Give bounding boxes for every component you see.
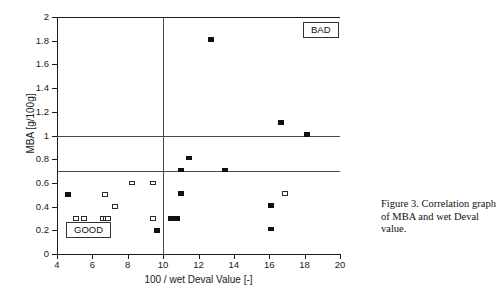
y-tick-mark (52, 136, 57, 137)
y-tick-mark (52, 159, 57, 160)
x-tick-label: 6 (80, 259, 104, 270)
x-tick-label: 18 (293, 259, 317, 270)
y-tick-mark (52, 64, 57, 65)
y-tick-mark (52, 17, 57, 18)
x-tick-label: 10 (151, 259, 175, 270)
y-tick-label: 2 (22, 11, 49, 22)
y-tick-label: 1.8 (22, 35, 49, 46)
data-point-filled-square (178, 168, 184, 173)
x-axis-title: 100 / wet Deval Value [-] (57, 274, 340, 285)
y-tick-mark (52, 112, 57, 113)
data-point-filled-square (268, 203, 274, 208)
data-point-filled-square (222, 168, 228, 173)
data-point-filled-square (208, 37, 214, 42)
data-point-open-square (150, 216, 156, 221)
data-point-open-square (73, 216, 79, 221)
x-tick-label: 8 (116, 259, 140, 270)
data-point-open-square (282, 191, 288, 196)
figure-caption: Figure 3. Correlation graph of MBA and w… (381, 198, 496, 236)
x-tick-label: 14 (222, 259, 246, 270)
data-point-open-square (81, 216, 87, 221)
data-point-open-square (150, 181, 156, 186)
scatter-chart: 00.20.40.60.811.21.41.61.82 468101214161… (0, 0, 368, 300)
annotation-bad: BAD (303, 22, 339, 38)
y-tick-mark (52, 230, 57, 231)
x-tick-label: 12 (187, 259, 211, 270)
data-point-filled-square (304, 132, 310, 137)
y-axis-title: MBA [g/100g] (25, 64, 36, 184)
data-point-filled-square (278, 120, 284, 125)
reference-line-horizontal (57, 136, 340, 137)
x-tick-label: 20 (328, 259, 352, 270)
data-point-filled-square (168, 216, 174, 221)
y-tick-label: 0 (22, 248, 49, 259)
data-point-filled-square (154, 228, 160, 233)
data-point-filled-square (65, 192, 71, 197)
y-tick-mark (52, 183, 57, 184)
data-point-filled-square (268, 227, 274, 232)
y-tick-label: 0.2 (22, 224, 49, 235)
data-point-filled-square (178, 191, 184, 196)
data-point-open-square (112, 204, 118, 209)
annotation-good: GOOD (66, 222, 111, 238)
x-tick-label: 16 (257, 259, 281, 270)
y-tick-mark (52, 88, 57, 89)
figure-container: 00.20.40.60.811.21.41.61.82 468101214161… (0, 0, 499, 300)
y-tick-mark (52, 41, 57, 42)
data-point-open-square (129, 181, 135, 186)
data-point-open-square (102, 192, 108, 197)
y-tick-label: 0.4 (22, 201, 49, 212)
x-tick-label: 4 (45, 259, 69, 270)
reference-line-vertical (163, 17, 164, 254)
data-point-filled-square (186, 156, 192, 161)
reference-line-horizontal (57, 171, 340, 172)
y-tick-mark (52, 207, 57, 208)
data-point-filled-square (174, 216, 180, 221)
data-point-open-square (105, 216, 111, 221)
